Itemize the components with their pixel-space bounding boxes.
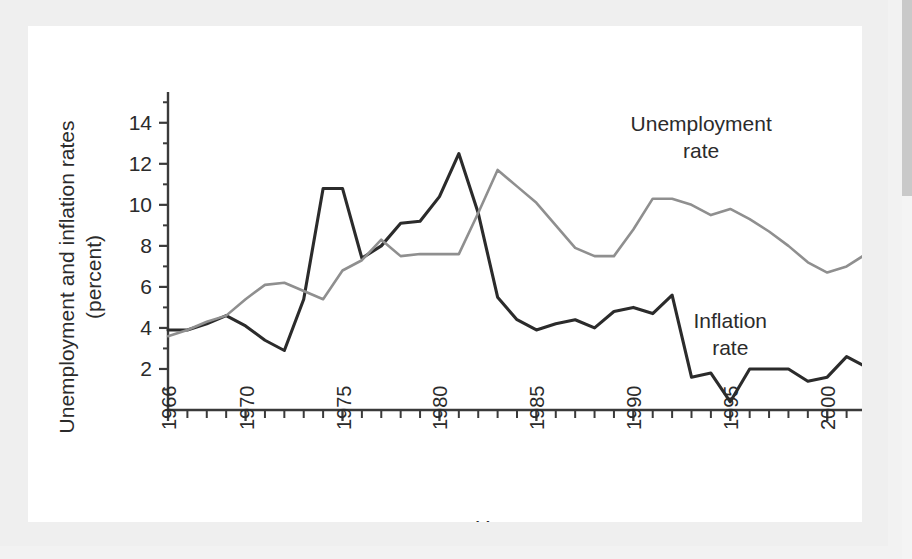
y-axis-title-group: Unemployment and inflation rates(percent… (55, 121, 105, 434)
annotation-line-2: rate (712, 336, 748, 359)
chart-area: 2468101214196619701975198019851990199520… (28, 26, 862, 522)
x-tick-label: 2000 (817, 386, 839, 431)
x-tick-label-group: 1980 (429, 386, 451, 431)
x-tick-label-group: 2000 (817, 386, 839, 431)
x-tick-label-group: 1966 (158, 386, 180, 431)
x-tick-label-group: 1970 (236, 386, 258, 431)
series-annotation-inflation: Inflationrate (693, 309, 767, 359)
y-tick-label: 4 (140, 316, 152, 339)
x-tick-label: 1985 (526, 386, 548, 431)
x-tick-label: 1966 (158, 386, 180, 431)
annotation-line-2: rate (683, 139, 719, 162)
y-tick-label: 6 (140, 275, 152, 298)
x-tick-label-group: 1985 (526, 386, 548, 431)
y-tick-label: 12 (129, 152, 152, 175)
x-tick-label: 1970 (236, 386, 258, 431)
annotation-line-1: Inflation (693, 309, 767, 332)
right-edge-strip (902, 0, 912, 196)
x-axis-title: Year (476, 516, 518, 522)
y-axis-title-line-2: (percent) (82, 235, 105, 319)
y-axis-title-line-1: Unemployment and inflation rates (55, 121, 78, 434)
right-edge-strip-lower (902, 196, 912, 559)
y-tick-label: 2 (140, 357, 152, 380)
series-line-inflation (168, 154, 862, 402)
x-tick-label: 1975 (333, 386, 355, 431)
axis-lines (168, 92, 862, 410)
x-tick-label-group: 1975 (333, 386, 355, 431)
figure-card: 2468101214196619701975198019851990199520… (28, 26, 862, 522)
x-tick-label: 1980 (429, 386, 451, 431)
series-annotation-unemployment: Unemploymentrate (631, 112, 772, 162)
y-tick-label: 14 (129, 111, 153, 134)
x-tick-label: 1990 (623, 386, 645, 431)
y-tick-label: 10 (129, 193, 152, 216)
y-tick-label: 8 (140, 234, 152, 257)
line-chart: 2468101214196619701975198019851990199520… (28, 26, 862, 522)
page-root: 2468101214196619701975198019851990199520… (0, 0, 912, 559)
x-tick-label-group: 1990 (623, 386, 645, 431)
annotation-line-1: Unemployment (631, 112, 772, 135)
